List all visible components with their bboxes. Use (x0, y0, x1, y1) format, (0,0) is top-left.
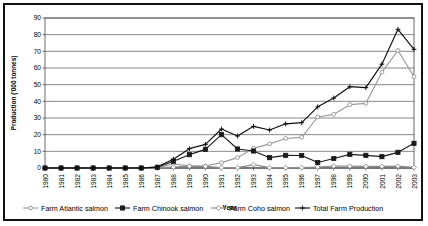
legend-marker-0 (29, 206, 33, 210)
series-farm-atlantic-salmon (43, 49, 416, 170)
y-axis-title: Production ('000 tonnes) (10, 56, 18, 131)
x-tick-label-1991: 1991 (218, 174, 225, 189)
data-point (203, 147, 207, 151)
y-tick-label-0: 0 (37, 164, 41, 171)
data-point (187, 153, 191, 157)
data-point (364, 101, 368, 105)
x-tick-label-2002: 2002 (395, 174, 402, 189)
data-point (332, 112, 336, 116)
plot-border (45, 18, 414, 168)
y-tick-label-60: 60 (34, 64, 42, 71)
data-point (284, 153, 288, 157)
data-point (284, 137, 288, 141)
x-tick-label-1981: 1981 (58, 174, 65, 189)
chart-area: 0102030405060708090Production ('000 tonn… (5, 5, 421, 219)
x-tick-label-1987: 1987 (154, 174, 161, 189)
y-tick-label-90: 90 (34, 14, 42, 21)
legend-label-1: Farm Chinook salmon (133, 204, 203, 213)
data-point (299, 165, 304, 170)
data-point (219, 165, 224, 170)
x-tick-label-1996: 1996 (298, 174, 305, 189)
data-point (396, 49, 400, 53)
y-tick-label-10: 10 (34, 148, 42, 155)
x-tick-label-1997: 1997 (314, 174, 321, 189)
data-point (251, 149, 255, 153)
x-tick-label-2001: 2001 (379, 174, 386, 189)
data-point (235, 165, 240, 170)
data-point (300, 153, 304, 157)
x-tick-label-1983: 1983 (90, 174, 97, 189)
x-tick-label-1990: 1990 (202, 174, 209, 189)
legend-label-3: Total Farm Production (313, 204, 383, 213)
data-point (267, 165, 272, 170)
x-tick-label-1998: 1998 (330, 174, 337, 189)
data-point (220, 161, 224, 165)
data-point (316, 115, 320, 119)
legend-label-2: Farm Coho salmon (229, 204, 290, 213)
x-tick-label-1992: 1992 (234, 174, 241, 189)
chart-frame: 0102030405060708090Production ('000 tonn… (3, 3, 423, 221)
x-tick-label-1994: 1994 (266, 174, 273, 189)
x-tick-label-1993: 1993 (250, 174, 257, 189)
series-farm-coho-salmon (43, 162, 417, 170)
x-tick-label-1989: 1989 (186, 174, 193, 189)
data-point (316, 160, 320, 164)
production-line-chart: 0102030405060708090Production ('000 tonn… (5, 5, 421, 219)
y-tick-label-20: 20 (34, 131, 42, 138)
y-tick-label-80: 80 (34, 31, 42, 38)
data-point (235, 147, 239, 151)
data-point (412, 75, 416, 79)
x-tick-label-1985: 1985 (122, 174, 129, 189)
x-tick-label-1995: 1995 (282, 174, 289, 189)
data-point (300, 135, 304, 139)
y-tick-label-70: 70 (34, 48, 42, 55)
data-point (412, 165, 417, 170)
data-point (348, 103, 352, 107)
legend-label-0: Farm Atlantic salmon (41, 204, 108, 213)
data-point (251, 162, 256, 167)
chart-legend: Farm Atlantic salmonFarm Chinook salmonF… (23, 204, 383, 213)
data-point (396, 150, 400, 154)
x-tick-label-1984: 1984 (106, 174, 113, 189)
data-point (283, 165, 288, 170)
data-point (380, 155, 384, 159)
y-tick-label-50: 50 (34, 81, 42, 88)
data-point (348, 152, 352, 156)
data-point (364, 153, 368, 157)
data-point (219, 133, 223, 137)
x-tick-label-1999: 1999 (346, 174, 353, 189)
legend-marker-2 (216, 206, 221, 211)
data-point (315, 165, 320, 170)
x-tick-label-1988: 1988 (170, 174, 177, 189)
data-point (412, 141, 416, 145)
data-point (268, 142, 272, 146)
legend-marker-1 (120, 206, 124, 210)
y-tick-label-40: 40 (34, 98, 42, 105)
y-tick-label-30: 30 (34, 114, 42, 121)
data-point (268, 156, 272, 160)
x-tick-label-1980: 1980 (42, 174, 49, 189)
x-tick-label-1986: 1986 (138, 174, 145, 189)
x-tick-label-2000: 2000 (362, 174, 369, 189)
series-line (45, 29, 414, 168)
data-point (332, 156, 336, 160)
data-point (236, 156, 240, 160)
data-point (380, 70, 384, 74)
series-total-farm-production (43, 27, 417, 170)
x-tick-label-1982: 1982 (74, 174, 81, 189)
x-tick-label-2003: 2003 (411, 174, 418, 189)
